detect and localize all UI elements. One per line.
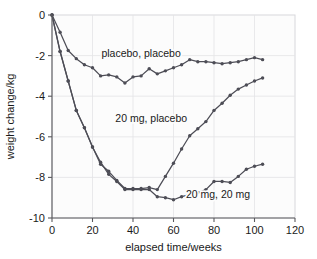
- data-point: [261, 58, 264, 61]
- data-point: [67, 49, 70, 52]
- data-point: [180, 63, 183, 66]
- x-axis-title: elapsed time/weeks: [125, 241, 222, 253]
- data-point: [115, 75, 118, 78]
- data-point: [204, 120, 207, 123]
- y-axis-title: weight change/kg: [4, 74, 16, 161]
- data-point: [237, 60, 240, 63]
- data-point: [237, 175, 240, 178]
- data-point: [229, 93, 232, 96]
- x-tick-label: 80: [208, 224, 220, 236]
- x-tick-label: 40: [127, 224, 139, 236]
- x-tick-label: 20: [86, 224, 98, 236]
- data-point: [188, 134, 191, 137]
- x-tick-label: 100: [245, 224, 263, 236]
- data-point: [196, 127, 199, 130]
- chart-figure: 0204060801001200-2-4-6-8-10elapsed time/…: [0, 0, 317, 259]
- data-point: [172, 198, 175, 201]
- data-point: [148, 188, 151, 191]
- data-point: [172, 161, 175, 164]
- data-point: [58, 50, 61, 53]
- data-point: [156, 72, 159, 75]
- data-point: [91, 145, 94, 148]
- y-tick-label: -2: [35, 50, 45, 62]
- data-point: [253, 56, 256, 59]
- data-point: [180, 147, 183, 150]
- y-tick-label: -8: [35, 171, 45, 183]
- data-point: [237, 87, 240, 90]
- data-point: [83, 126, 86, 129]
- series-label-0: placebo, placebo: [101, 47, 181, 59]
- data-point: [123, 81, 126, 84]
- line-chart: 0204060801001200-2-4-6-8-10elapsed time/…: [0, 0, 317, 259]
- data-point: [99, 74, 102, 77]
- data-point: [164, 175, 167, 178]
- data-point: [212, 61, 215, 64]
- data-point: [139, 74, 142, 77]
- y-tick-label: -4: [35, 90, 45, 102]
- data-point: [156, 188, 159, 191]
- data-point: [204, 60, 207, 63]
- data-point: [196, 60, 199, 63]
- y-tick-label: -6: [35, 131, 45, 143]
- data-point: [164, 196, 167, 199]
- x-tick-label: 60: [167, 224, 179, 236]
- data-point: [139, 188, 142, 191]
- data-point: [164, 69, 167, 72]
- data-point: [253, 79, 256, 82]
- data-point: [245, 58, 248, 61]
- data-point: [229, 181, 232, 184]
- x-tick-label: 120: [286, 224, 304, 236]
- series-label-1: 20 mg, placebo: [115, 112, 187, 124]
- y-tick-label: 0: [39, 9, 45, 21]
- data-point: [91, 66, 94, 69]
- data-point: [148, 67, 151, 70]
- data-point: [99, 160, 102, 163]
- data-point: [212, 180, 215, 183]
- data-point: [188, 58, 191, 61]
- data-point: [180, 195, 183, 198]
- data-point: [107, 73, 110, 76]
- data-point: [131, 188, 134, 191]
- data-point: [261, 76, 264, 79]
- data-point: [131, 75, 134, 78]
- data-point: [75, 57, 78, 60]
- data-point: [220, 102, 223, 105]
- data-point: [253, 165, 256, 168]
- data-point: [172, 66, 175, 69]
- data-point: [115, 180, 118, 183]
- x-tick-label: 0: [49, 224, 55, 236]
- data-point: [156, 195, 159, 198]
- data-point: [261, 163, 264, 166]
- data-point: [67, 79, 70, 82]
- data-point: [229, 61, 232, 64]
- data-point: [245, 83, 248, 86]
- data-point: [212, 109, 215, 112]
- data-point: [220, 180, 223, 183]
- data-point: [220, 62, 223, 65]
- data-point: [83, 63, 86, 66]
- data-point: [123, 188, 126, 191]
- data-point: [75, 109, 78, 112]
- y-tick-label: -10: [29, 212, 45, 224]
- data-point: [107, 173, 110, 176]
- data-point: [58, 31, 61, 34]
- data-point: [245, 168, 248, 171]
- series-label-2: 20 mg, 20 mg: [186, 188, 250, 200]
